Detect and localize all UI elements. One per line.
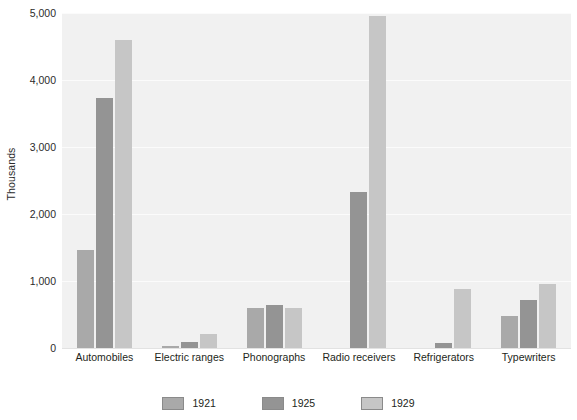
bar[interactable]	[369, 16, 386, 348]
y-axis-tick-labels: 01,0002,0003,0004,0005,000	[22, 0, 60, 348]
bar[interactable]	[285, 308, 302, 348]
x-axis-category-label: Phonographs	[243, 351, 305, 363]
bar[interactable]	[266, 305, 283, 348]
bar[interactable]	[115, 40, 132, 348]
legend-item[interactable]: 1929	[361, 397, 414, 410]
legend-item[interactable]: 1921	[162, 397, 215, 410]
bar[interactable]	[200, 334, 217, 348]
bar-group	[147, 13, 232, 348]
legend-swatch	[162, 397, 184, 410]
bar-chart: Thousands 01,0002,0003,0004,0005,000 Aut…	[0, 0, 577, 420]
bar-group	[317, 13, 402, 348]
plot-area	[62, 13, 571, 348]
legend-label: 1925	[292, 397, 315, 409]
legend-label: 1929	[391, 397, 414, 409]
bar[interactable]	[454, 289, 471, 348]
bar[interactable]	[520, 300, 537, 348]
x-axis-category-label: Electric ranges	[155, 351, 224, 363]
bar[interactable]	[77, 250, 94, 348]
x-axis-category-label: Radio receivers	[322, 351, 395, 363]
y-axis-tick-label: 3,000	[30, 141, 56, 153]
y-axis-tick-label: 0	[50, 342, 56, 354]
y-axis-tick-label: 2,000	[30, 208, 56, 220]
chart-legend: 192119251929	[0, 392, 577, 414]
y-axis-tick-label: 5,000	[30, 7, 56, 19]
y-axis-tick-label: 1,000	[30, 275, 56, 287]
bar[interactable]	[96, 98, 113, 348]
x-axis-category-label: Typewriters	[502, 351, 556, 363]
bar-group	[232, 13, 317, 348]
legend-label: 1921	[192, 397, 215, 409]
x-axis-category-label: Refrigerators	[413, 351, 474, 363]
x-axis-baseline	[62, 348, 571, 349]
bar[interactable]	[501, 316, 518, 348]
legend-item[interactable]: 1925	[262, 397, 315, 410]
bars-layer	[62, 13, 571, 348]
bar-group	[62, 13, 147, 348]
y-axis-title-text: Thousands	[5, 148, 17, 201]
legend-swatch	[262, 397, 284, 410]
x-axis-category-labels: AutomobilesElectric rangesPhonographsRad…	[62, 351, 571, 371]
y-axis-tick-label: 4,000	[30, 74, 56, 86]
bar[interactable]	[539, 284, 556, 348]
bar-group	[401, 13, 486, 348]
bar[interactable]	[247, 308, 264, 348]
y-axis-title: Thousands	[0, 0, 22, 348]
x-axis-category-label: Automobiles	[76, 351, 134, 363]
bar[interactable]	[350, 192, 367, 348]
legend-swatch	[361, 397, 383, 410]
bar-group	[486, 13, 571, 348]
